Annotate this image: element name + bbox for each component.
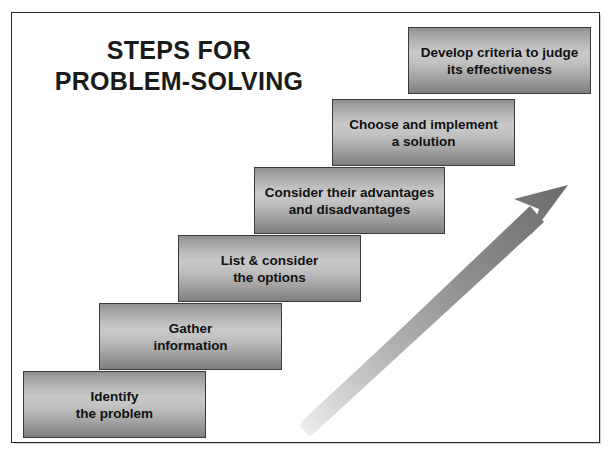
step-label-2: Gather information — [147, 320, 233, 354]
step-label-3: List & consider the options — [215, 252, 325, 286]
title-line-2: PROBLEM-SOLVING — [34, 66, 324, 97]
step-box-4[interactable]: Consider their advantages and disadvanta… — [254, 167, 445, 234]
step-box-3[interactable]: List & consider the options — [178, 235, 361, 302]
step-label-5: Choose and implement a solution — [343, 116, 504, 150]
step-label-4: Consider their advantages and disadvanta… — [259, 184, 441, 218]
step-box-6[interactable]: Develop criteria to judge its effectiven… — [408, 27, 591, 94]
diagram-canvas: STEPS FOR PROBLEM-SOLVING — [0, 0, 612, 455]
step-box-5[interactable]: Choose and implement a solution — [332, 99, 515, 166]
step-box-1[interactable]: Identify the problem — [23, 371, 206, 438]
step-label-1: Identify the problem — [70, 388, 159, 422]
page-title: STEPS FOR PROBLEM-SOLVING — [34, 35, 324, 97]
step-label-6: Develop criteria to judge its effectiven… — [415, 44, 585, 78]
title-line-1: STEPS FOR — [34, 35, 324, 66]
diagram-frame: STEPS FOR PROBLEM-SOLVING — [11, 12, 600, 443]
step-box-2[interactable]: Gather information — [99, 303, 282, 370]
